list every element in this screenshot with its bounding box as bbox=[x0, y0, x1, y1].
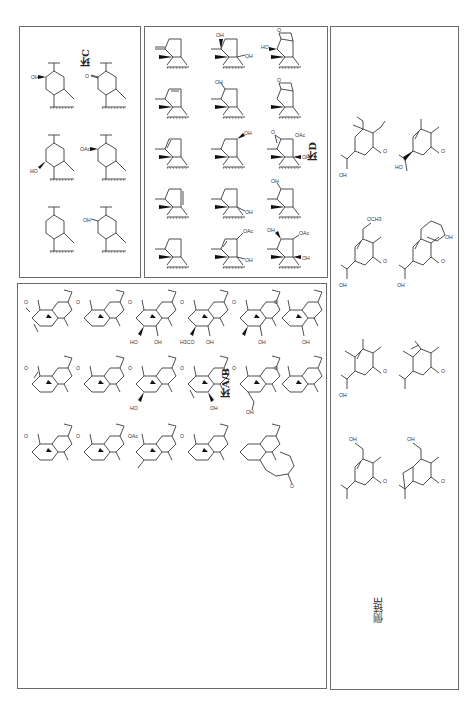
oh-substituent: OH bbox=[83, 217, 91, 223]
ring-d-structure-15: OH OAc OH bbox=[263, 231, 315, 277]
ring-d-structure-2 bbox=[151, 81, 199, 127]
oh-substituent: OH bbox=[339, 282, 347, 288]
side-chain-structure-6: O OH OH bbox=[397, 227, 453, 317]
oh-substituent: OH bbox=[339, 172, 347, 178]
o-substituent: O bbox=[383, 478, 387, 484]
ring-ab-structure-15: OAc bbox=[128, 422, 180, 482]
ring-d-structure-1 bbox=[151, 31, 199, 77]
ring-ab-structure-6: O OH bbox=[274, 288, 324, 348]
ring-d-structure-8: OH bbox=[207, 131, 257, 177]
oh-substituent: OH bbox=[215, 79, 223, 85]
ring-ab-structure-1: O bbox=[24, 288, 76, 348]
ho-substituent: HO bbox=[261, 44, 269, 50]
o-substituent: O bbox=[277, 27, 281, 33]
ring-c-structure-4: OAc bbox=[82, 127, 132, 187]
och3-substituent: OCH3 bbox=[367, 216, 382, 222]
side-chain-structure-2: O OCH3 OH bbox=[339, 227, 395, 307]
oac-substituent: OAc bbox=[128, 433, 138, 439]
panel-ring-c: 环C OH O HO OAc OH bbox=[19, 26, 141, 278]
o-substituent: O bbox=[277, 77, 281, 83]
o-substituent: O bbox=[24, 365, 28, 371]
oac-substituent: OAc bbox=[299, 230, 309, 236]
o-substituent: O bbox=[24, 433, 28, 439]
side-chain-structure-3: O OH bbox=[339, 337, 395, 417]
ring-d-structure-14: OH bbox=[263, 181, 315, 227]
o-substituent: O bbox=[441, 368, 445, 374]
ring-d-structure-4 bbox=[151, 181, 199, 227]
o-substituent: O bbox=[128, 365, 132, 371]
side-chain-structure-5: O HO bbox=[397, 117, 453, 197]
ring-ab-structure-7: O bbox=[24, 354, 76, 414]
ho-substituent: HO bbox=[130, 339, 138, 345]
o-substituent: O bbox=[76, 433, 80, 439]
oh-substituent: OH bbox=[349, 436, 357, 442]
oh-substituent: OH bbox=[258, 339, 266, 345]
ho-substituent: HO bbox=[30, 168, 38, 174]
side-chain-structure-1: O OH bbox=[339, 117, 395, 197]
o-substituent: O bbox=[383, 368, 387, 374]
oac-substituent: OAc bbox=[243, 228, 253, 234]
o-substituent: O bbox=[274, 365, 278, 371]
oh-substituent: OH bbox=[445, 234, 453, 240]
ring-d-structure-5 bbox=[151, 231, 199, 277]
o-substituent: O bbox=[76, 365, 80, 371]
panel-ring-d: 环D OH OH OH bbox=[144, 26, 328, 278]
oh-substituent: OH bbox=[244, 130, 252, 136]
o-substituent: O bbox=[76, 299, 80, 305]
oh-substituent: OH bbox=[302, 154, 310, 160]
epoxide-o: O bbox=[271, 129, 275, 135]
oh-substituent: OH bbox=[267, 227, 275, 233]
o-substituent: O bbox=[180, 433, 184, 439]
side-chain-structure-4: O OH bbox=[339, 447, 395, 527]
side-chain-structure-7: O bbox=[397, 337, 453, 417]
o-substituent: O bbox=[180, 299, 184, 305]
ho-substituent: HO bbox=[130, 405, 138, 411]
ring-c-structure-3: HO bbox=[30, 127, 80, 187]
oh-substituent: OH bbox=[210, 405, 218, 411]
ring-d-structure-3 bbox=[151, 131, 199, 177]
oh-substituent: OH bbox=[271, 178, 279, 184]
oh-substituent: OH bbox=[31, 74, 39, 80]
ring-d-structure-10: OAc OH bbox=[207, 231, 257, 277]
ring-ab-structure-4: O OH H3CO bbox=[180, 288, 232, 348]
ring-d-structure-13: O OAc OH bbox=[263, 131, 315, 177]
ring-c-structure-6: OH bbox=[82, 199, 132, 259]
oh-substituent: OH bbox=[154, 339, 162, 345]
ring-ab-structure-17: O bbox=[232, 422, 324, 502]
o-substituent: O bbox=[383, 148, 387, 154]
o-substituent: O bbox=[232, 365, 236, 371]
oac-substituent: OAc bbox=[80, 146, 90, 152]
o-substituent: O bbox=[441, 148, 445, 154]
oh-substituent: OH bbox=[407, 436, 415, 442]
panel-ring-a-b: 环A/B O O O OH HO O OH H3CO O OH O OH bbox=[17, 283, 327, 689]
ring-ab-structure-13: O bbox=[24, 422, 76, 482]
o-substituent: O bbox=[441, 258, 445, 264]
oh-substituent: OH bbox=[245, 209, 253, 215]
ring-ab-structure-3: O OH HO bbox=[128, 288, 180, 348]
ring-ab-structure-9: O HO bbox=[128, 354, 180, 414]
o-substituent: O bbox=[180, 365, 184, 371]
panel-label-side-chain-e: 侧链E bbox=[371, 597, 386, 623]
ring-d-structure-6: OH OH bbox=[207, 31, 257, 77]
o-substituent: O bbox=[383, 258, 387, 264]
h3co-substituent: H3CO bbox=[180, 339, 194, 345]
ring-ab-structure-10: O OH bbox=[180, 354, 232, 414]
ring-c-structure-5 bbox=[30, 199, 80, 259]
oh-substituent: OH bbox=[245, 257, 253, 263]
ring-d-structure-12: O bbox=[263, 81, 315, 127]
ring-ab-structure-16: O bbox=[180, 422, 232, 482]
oh-substituent: OH bbox=[339, 392, 347, 398]
o-substituent: O bbox=[128, 299, 132, 305]
lactone-o: O bbox=[290, 483, 294, 489]
o-substituent: O bbox=[441, 478, 445, 484]
side-chain-structure-8: O OH bbox=[397, 447, 453, 527]
o-substituent: O bbox=[232, 299, 236, 305]
ho-substituent: HO bbox=[395, 164, 403, 170]
ring-c-structure-2: O bbox=[82, 55, 132, 115]
oh-substituent: OH bbox=[302, 339, 310, 345]
oh-substituent: OH bbox=[302, 255, 310, 261]
ring-ab-structure-2: O bbox=[76, 288, 128, 348]
o-substituent: O bbox=[85, 73, 89, 79]
ring-ab-structure-14: O bbox=[76, 422, 128, 482]
oh-substituent: OH bbox=[246, 409, 254, 415]
